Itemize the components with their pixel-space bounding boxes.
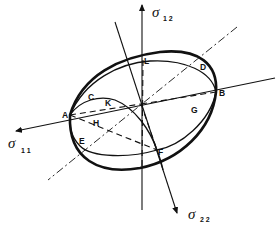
sigma-11-axis [16, 78, 275, 131]
sigma-12-subscript: 1 2 [163, 15, 173, 22]
sigma-12-label: σ [152, 4, 160, 20]
sigma-11-subscript: 1 1 [21, 147, 31, 154]
point-label-A: A [62, 110, 68, 120]
point-label-E: E [79, 136, 85, 146]
point-label-H: H [93, 118, 99, 128]
sigma-11-label: σ [8, 135, 16, 151]
sigma-22-label: σ [188, 206, 196, 222]
point-label-G: G [191, 105, 198, 115]
point-label-K: K [105, 98, 112, 108]
sigma-22-subscript: 2 2 [200, 216, 210, 223]
point-label-B: B [219, 88, 225, 98]
point-label-L: L [144, 56, 149, 66]
yield-surface-diagram: L D B G C K A H E F σ 1 2 σ 1 1 σ 2 2 [0, 0, 279, 230]
point-label-D: D [200, 62, 206, 72]
point-label-C: C [88, 92, 94, 102]
point-label-F: F [158, 147, 163, 157]
